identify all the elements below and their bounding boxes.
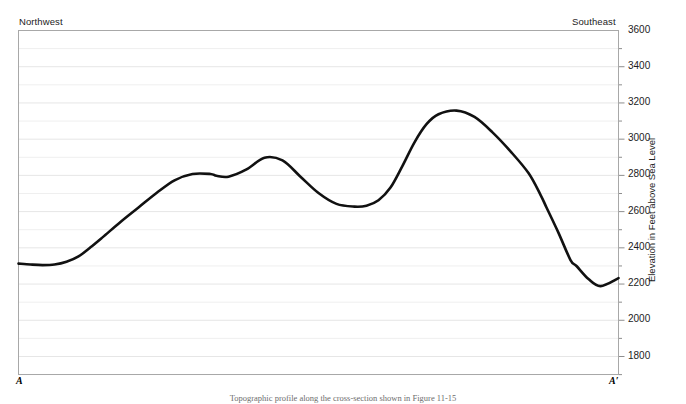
major-gridlines [19, 67, 619, 357]
y-tick-label-3600: 3600 [628, 24, 650, 35]
y-axis-title: Elevation in Feet above Sea Level [646, 130, 657, 290]
axis-tick-marks [619, 49, 625, 375]
y-axis-title-text: Elevation in Feet above Sea Level [646, 130, 657, 290]
profile-endpoint-a-prime: A′ [609, 375, 618, 386]
y-tick-label-3400: 3400 [628, 60, 650, 71]
y-tick-label-1800: 1800 [628, 350, 650, 361]
plot-frame [19, 31, 619, 375]
y-tick-label-3200: 3200 [628, 96, 650, 107]
elevation-profile-line [19, 111, 619, 287]
elevation-profile-chart [0, 0, 686, 404]
y-tick-label-2000: 2000 [628, 313, 650, 324]
figure-caption: Topographic profile along the cross-sect… [0, 393, 686, 403]
figure-container: Northwest Southeast 36003400320030002800… [0, 0, 686, 404]
profile-endpoint-a: A [16, 375, 23, 386]
